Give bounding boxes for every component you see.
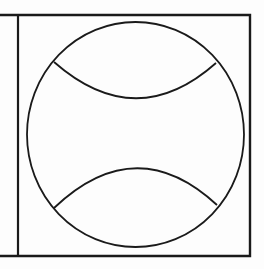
baseball-lower-seam (54, 168, 217, 208)
baseball-outline-icon (27, 22, 244, 247)
baseball-upper-seam (54, 62, 216, 98)
baseball-diagram: Baseball line drawing (0, 0, 264, 269)
baseball-drawing-svg (0, 0, 264, 269)
frame-outline (0, 15, 250, 256)
